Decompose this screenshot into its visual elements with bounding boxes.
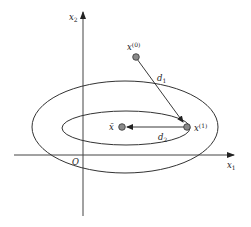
point-xbar — [119, 124, 126, 131]
x0-label: x(0) — [127, 41, 140, 52]
d2-label: d2 — [158, 132, 167, 143]
x1-label: x(1) — [194, 122, 207, 133]
origin-label: O — [72, 157, 79, 167]
d1-label: d1 — [157, 73, 166, 84]
point-x0 — [133, 54, 140, 61]
diagram-svg: x2 x1 O x(0) x(1) x̄ d1 d2 — [0, 0, 251, 227]
diagram-canvas: x2 x1 O x(0) x(1) x̄ d1 d2 — [0, 0, 251, 227]
y-axis-label: x2 — [69, 12, 78, 23]
d1-arrow — [137, 59, 183, 122]
inner-contour — [62, 111, 190, 145]
point-x1 — [184, 124, 191, 131]
x-axis-label: x1 — [227, 160, 236, 171]
xbar-label: x̄ — [109, 122, 114, 132]
